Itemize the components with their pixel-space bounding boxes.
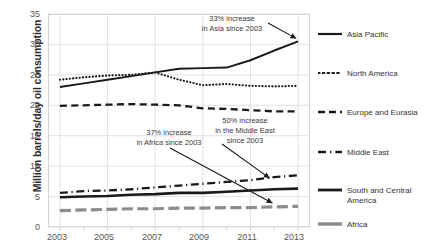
y-tick-25: 25 [4,70,40,80]
y-tick-35: 35 [4,9,40,19]
legend-label: Europe and Eurasia [347,106,418,118]
legend-label: Middle East [347,146,389,158]
annotation-me-line3: since 2003 [196,136,294,146]
legend-item-europe-eurasia[interactable]: Europe and Eurasia [318,106,429,118]
y-tick-10: 10 [4,161,40,171]
chart-figure: Million barrels/day oil consumption 35 3… [0,0,429,251]
y-tick-15: 15 [4,131,40,141]
chart-legend: Asia Pacific North America Europe and Eu… [318,14,429,227]
dashed-line-key-icon [318,106,342,118]
legend-label: North America [347,67,398,79]
legend-item-north-america[interactable]: North America [318,67,429,79]
solid-line-key-icon [318,28,342,40]
y-tick-0: 0 [4,222,40,232]
legend-item-asia-pacific[interactable]: Asia Pacific [318,28,429,40]
y-axis-title: Million barrels/day oil consumption [31,0,43,221]
y-tick-30: 30 [4,39,40,49]
x-tick-2011: 2011 [225,232,269,242]
legend-item-south-central-america[interactable]: South and Central America [318,184,429,206]
thick-solid-line-key-icon [318,184,342,196]
annotation-middle-east: 50% increase in the Middle East since 20… [196,116,294,146]
y-tick-20: 20 [4,100,40,110]
x-tick-2009: 2009 [177,232,221,242]
x-tick-2005: 2005 [82,232,126,242]
dashdot-line-key-icon [318,146,342,158]
legend-item-africa[interactable]: Africa [318,218,429,230]
annotation-asia-line2: in Asia since 2003 [186,24,278,34]
dotted-line-key-icon [318,67,342,79]
x-tick-2013: 2013 [272,232,316,242]
annotation-me-line2: in the Middle East [196,126,294,136]
legend-label: Africa [347,218,367,230]
legend-label: South and Central America [347,184,429,206]
x-tick-2003: 2003 [35,232,79,242]
x-tick-2007: 2007 [130,232,174,242]
legend-label: Asia Pacific [347,28,388,40]
legend-item-middle-east[interactable]: Middle East [318,146,429,158]
annotation-me-line1: 50% increase [196,116,294,126]
annotation-asia-line1: 33% increase [186,14,278,24]
y-tick-5: 5 [4,192,40,202]
gray-solid-line-key-icon [318,218,342,230]
annotation-asia: 33% increase in Asia since 2003 [186,14,278,34]
